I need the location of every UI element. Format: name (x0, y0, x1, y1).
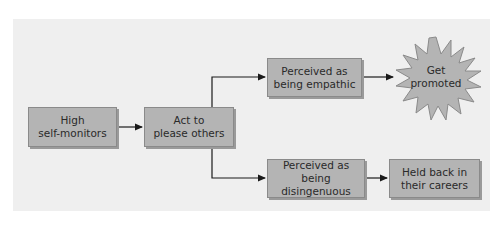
node-label-line1: High (38, 114, 106, 127)
node-held-back: Held back in their careers (389, 159, 480, 198)
node-label-line1: Perceived as (274, 65, 356, 78)
node-act-to-please-others: Act to please others (144, 107, 234, 147)
node-perceived-empathic: Perceived as being empathic (267, 58, 362, 97)
arrow-act-to-disingenuous (212, 147, 265, 178)
node-label-line2: being disingenuous (268, 172, 364, 198)
node-label-line2: self-monitors (38, 127, 106, 140)
node-label-line2: please others (153, 127, 224, 140)
node-label-line1: Act to (153, 114, 224, 127)
node-label-line2: being empathic (274, 78, 356, 91)
node-label-line1: Perceived as (268, 159, 364, 172)
node-label-line2: promoted (406, 77, 466, 90)
node-high-self-monitors: High self-monitors (28, 107, 117, 147)
node-label-line2: their careers (401, 179, 468, 192)
node-get-promoted: Get promoted (406, 64, 466, 90)
node-label-line1: Held back in (401, 166, 468, 179)
node-label-line1: Get (406, 64, 466, 77)
arrow-act-to-empathic (212, 77, 265, 107)
node-perceived-disingenuous: Perceived as being disingenuous (267, 159, 365, 198)
